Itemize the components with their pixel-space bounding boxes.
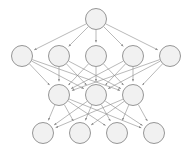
edge-L3N1-L4N2: [64, 105, 73, 121]
node-L4N2: [70, 123, 91, 144]
edge-L2N1-L3N1: [30, 64, 50, 85]
edges-group: [30, 24, 163, 128]
neural-network-diagram: [0, 0, 193, 150]
node-L3N2: [86, 85, 107, 106]
edge-L2N3-L3N1: [68, 64, 88, 85]
edge-L1N1-L2N2: [69, 27, 89, 47]
node-L3N1: [49, 85, 70, 106]
node-L2N5: [160, 46, 181, 67]
edge-L2N4-L3N2: [105, 64, 125, 85]
node-L4N4: [144, 123, 165, 144]
node-L2N3: [86, 46, 107, 67]
node-L4N1: [33, 123, 54, 144]
edge-L3N3-L4N4: [138, 105, 147, 121]
node-L2N1: [12, 46, 33, 67]
node-L1N1: [86, 9, 107, 30]
neural-network-svg: [0, 0, 193, 150]
node-L4N3: [107, 123, 128, 144]
node-L2N4: [123, 46, 144, 67]
node-L2N2: [49, 46, 70, 67]
edge-L2N5-L3N3: [142, 64, 162, 85]
edge-L3N2-L4N3: [101, 105, 110, 121]
node-L3N3: [123, 85, 144, 106]
edge-L1N1-L2N4: [104, 27, 124, 47]
edge-L3N1-L4N1: [48, 105, 54, 120]
